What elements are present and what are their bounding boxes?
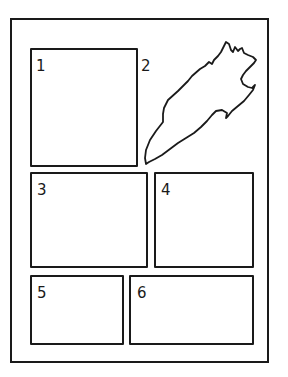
panel-6-label: 6 — [137, 286, 147, 301]
panel-3 — [30, 172, 148, 268]
panel-6 — [129, 275, 254, 345]
panel-1-label: 1 — [36, 59, 46, 74]
panel-1 — [30, 48, 138, 167]
panel-5-label: 5 — [37, 286, 47, 301]
panel-3-label: 3 — [37, 183, 47, 198]
panel-2-label: 2 — [141, 59, 151, 74]
panel-4-label: 4 — [161, 183, 171, 198]
